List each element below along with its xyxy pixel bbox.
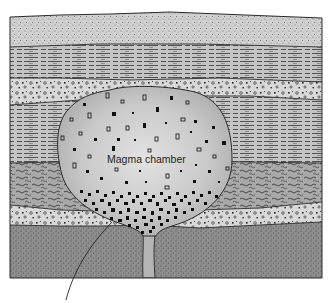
dark-stippled-basement-layer [10, 222, 322, 278]
magma-chamber-label: Magma chamber [107, 153, 186, 165]
cross-section-svg [0, 0, 331, 303]
stippled-sandstone-layer [10, 0, 322, 47]
lined-shale-layer-upper [10, 44, 322, 82]
strata-layers [10, 0, 322, 278]
magma-chamber-diagram: Magma chamber [0, 0, 331, 303]
